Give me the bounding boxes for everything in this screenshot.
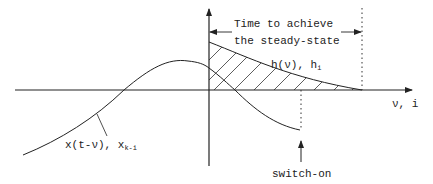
input-signal-subscript: k-i (124, 144, 137, 152)
x-axis-label: ν, i (392, 98, 419, 110)
input-signal-leader (97, 114, 107, 136)
input-signal-text: x(t-ν), x (65, 139, 125, 151)
switch-on-label: switch-on (272, 168, 331, 180)
impulse-response-text: h(ν), h (271, 59, 317, 71)
impulse-response-subscript: i (317, 64, 321, 72)
steady-state-label-line2: the steady-state (234, 35, 340, 47)
input-signal-label: x(t-ν), xk-i (65, 139, 137, 152)
steady-state-label-line1: Time to achieve (234, 18, 333, 30)
impulse-response-label: h(ν), hi (271, 59, 321, 72)
diagram-canvas: Time to achieve the steady-state h(ν), h… (0, 0, 433, 184)
